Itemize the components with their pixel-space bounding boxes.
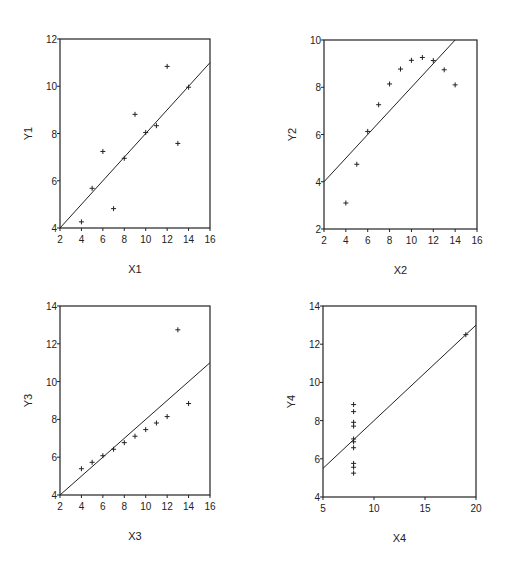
x-tick-label: 16: [204, 234, 216, 245]
data-point-plus-marker: [351, 465, 356, 470]
scatter-panel-4: 5101520468101214X4Y4: [285, 301, 482, 544]
y-tick-label: 4: [315, 177, 321, 188]
y-tick-label: 10: [310, 35, 322, 46]
data-point-plus-marker: [409, 58, 414, 63]
data-point-plus-marker: [143, 427, 148, 432]
x-tick-label: 8: [122, 234, 128, 245]
x-tick-label: 10: [140, 501, 152, 512]
x-tick-label: 4: [79, 234, 85, 245]
data-point-plus-marker: [122, 156, 127, 161]
x-tick-label: 10: [140, 234, 152, 245]
data-point-plus-marker: [354, 162, 359, 167]
x-tick-label: 2: [57, 501, 63, 512]
data-point-plus-marker: [186, 401, 191, 406]
data-point-plus-marker: [100, 149, 105, 154]
x-tick-label: 10: [368, 503, 380, 514]
plot-frame: [323, 306, 476, 497]
y-tick-label: 10: [46, 81, 58, 92]
x-axis-label: X2: [394, 264, 407, 276]
data-point-plus-marker: [165, 64, 170, 69]
regression-line: [324, 40, 455, 182]
data-point-plus-marker: [398, 67, 403, 72]
y-tick-label: 12: [46, 34, 58, 45]
y-axis-label: Y4: [285, 395, 297, 408]
x-tick-label: 12: [162, 234, 174, 245]
data-point-plus-marker: [111, 206, 116, 211]
x-tick-label: 6: [365, 235, 371, 246]
x-tick-label: 5: [320, 503, 326, 514]
data-point-plus-marker: [351, 409, 356, 414]
y-tick-label: 8: [315, 82, 321, 93]
y-tick-label: 4: [51, 223, 57, 234]
x-tick-label: 14: [450, 235, 462, 246]
y-axis-label: Y1: [22, 127, 34, 140]
y-tick-label: 14: [309, 301, 321, 312]
plot-frame: [60, 306, 210, 495]
y-tick-label: 14: [46, 301, 58, 312]
data-point-plus-marker: [186, 85, 191, 90]
data-point-plus-marker: [111, 447, 116, 452]
x-axis-label: X4: [393, 532, 406, 544]
x-tick-label: 8: [387, 235, 393, 246]
regression-line: [60, 363, 210, 495]
x-tick-label: 2: [57, 234, 63, 245]
data-point-plus-marker: [79, 466, 84, 471]
y-tick-label: 8: [51, 414, 57, 425]
data-point-plus-marker: [143, 130, 148, 135]
y-tick-label: 2: [315, 224, 321, 235]
data-point-plus-marker: [100, 453, 105, 458]
x-tick-label: 6: [100, 234, 106, 245]
scatter-panel-2: 246810121416246810X2Y2: [286, 35, 483, 276]
data-point-plus-marker: [154, 420, 159, 425]
y-tick-label: 8: [51, 129, 57, 140]
data-point-plus-marker: [133, 434, 138, 439]
y-axis-label: Y2: [286, 128, 298, 141]
scatter-panel-3: 246810121416468101214X3Y3: [22, 301, 216, 542]
data-point-plus-marker: [442, 67, 447, 72]
scatter-panel-1: 2468101214164681012X1Y1: [22, 34, 216, 275]
y-tick-label: 6: [51, 452, 57, 463]
x-tick-label: 4: [79, 501, 85, 512]
data-point-plus-marker: [165, 414, 170, 419]
data-point-plus-marker: [376, 102, 381, 107]
x-tick-label: 8: [122, 501, 128, 512]
x-tick-label: 14: [183, 501, 195, 512]
x-axis-label: X1: [128, 263, 141, 275]
y-tick-label: 4: [314, 492, 320, 503]
data-point-plus-marker: [420, 55, 425, 60]
x-tick-label: 16: [204, 501, 216, 512]
y-tick-label: 6: [315, 130, 321, 141]
plot-frame: [60, 39, 210, 228]
y-tick-label: 6: [51, 176, 57, 187]
x-axis-label: X3: [128, 530, 141, 542]
y-tick-label: 12: [46, 339, 58, 350]
x-tick-label: 4: [343, 235, 349, 246]
x-tick-label: 16: [471, 235, 483, 246]
x-tick-label: 12: [428, 235, 440, 246]
anscombe-quartet-figure: 2468101214164681012X1Y1 2468101214162468…: [0, 0, 507, 567]
data-point-plus-marker: [133, 112, 138, 117]
data-point-plus-marker: [387, 81, 392, 86]
regression-line: [323, 325, 476, 468]
y-tick-label: 8: [314, 416, 320, 427]
data-point-plus-marker: [351, 439, 356, 444]
x-tick-label: 10: [406, 235, 418, 246]
y-tick-label: 10: [46, 377, 58, 388]
data-point-plus-marker: [453, 82, 458, 87]
data-point-plus-marker: [343, 201, 348, 206]
data-point-plus-marker: [79, 219, 84, 224]
x-tick-label: 20: [470, 503, 482, 514]
data-point-plus-marker: [175, 141, 180, 146]
y-axis-label: Y3: [22, 394, 34, 407]
x-tick-label: 6: [100, 501, 106, 512]
data-point-plus-marker: [351, 420, 356, 425]
data-point-plus-marker: [122, 440, 127, 445]
data-point-plus-marker: [90, 460, 95, 465]
data-point-plus-marker: [351, 471, 356, 476]
y-tick-label: 4: [51, 490, 57, 501]
x-tick-label: 15: [419, 503, 431, 514]
x-tick-label: 2: [321, 235, 327, 246]
x-tick-label: 14: [183, 234, 195, 245]
x-tick-label: 12: [162, 501, 174, 512]
y-tick-label: 12: [309, 339, 321, 350]
